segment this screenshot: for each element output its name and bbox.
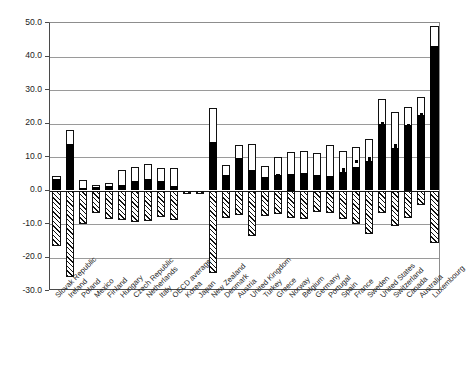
bar-segment-hatched — [235, 191, 243, 215]
bar-segment-hatched — [313, 191, 321, 212]
bar-segment-black — [144, 179, 152, 190]
bar-segment-hatched — [196, 191, 204, 194]
bar-segment-black — [261, 177, 269, 190]
bar-group — [287, 23, 295, 289]
bar-segment-hatched — [105, 191, 113, 219]
y-tick-label: 0.0 — [2, 185, 42, 194]
bar-group — [365, 23, 373, 289]
bar-segment-black — [378, 124, 386, 190]
bar-segment-hatched — [430, 191, 438, 243]
bar-group — [261, 23, 269, 289]
bar-segment-hatched — [417, 191, 425, 205]
bar-segment-hatched — [92, 191, 100, 214]
bar-segment-black — [131, 181, 139, 190]
data-point-marker — [407, 124, 410, 127]
bar-group — [209, 23, 217, 289]
bar-group — [170, 23, 178, 289]
bar-group — [222, 23, 230, 289]
bar-segment-black — [417, 115, 425, 190]
bar-segment-hatched — [222, 191, 230, 218]
bar-segment-black — [248, 170, 256, 191]
y-tick-label: -10.0 — [2, 219, 42, 228]
bar-group — [352, 23, 360, 289]
bar-segment-hatched — [79, 191, 87, 225]
bar-segment-black — [300, 173, 308, 190]
bar-segment-hatched — [300, 191, 308, 219]
bar-segment-black — [274, 175, 282, 190]
bar-segment-hatched — [352, 191, 360, 224]
data-point-marker — [394, 144, 397, 147]
bar-segment-hatched — [326, 191, 334, 213]
bar-segment-black — [157, 181, 165, 191]
bar-segment-black — [222, 175, 230, 191]
bar-segment-black — [430, 46, 438, 191]
bar-segment-black — [391, 148, 399, 190]
bar-group — [339, 23, 347, 289]
bar-segment-black — [404, 125, 412, 190]
bar-segment-black — [235, 158, 243, 190]
bar-segment-hatched — [287, 191, 295, 218]
bar-segment-black — [287, 174, 295, 191]
bar-segment-hatched — [248, 191, 256, 237]
bar-group — [248, 23, 256, 289]
bar-segment-black — [326, 176, 334, 190]
y-tick-label: 50.0 — [2, 18, 42, 27]
bar-segment-hatched — [378, 191, 386, 214]
bar-segment-black — [209, 142, 217, 190]
bar-group — [52, 23, 60, 289]
bar-segment-hatched — [209, 191, 217, 273]
data-point-marker — [368, 157, 371, 160]
data-point-marker — [316, 176, 319, 179]
data-point-marker — [381, 122, 384, 125]
bar-segment-hatched — [261, 191, 269, 217]
bar-group — [378, 23, 386, 289]
bar-segment-hatched — [52, 191, 60, 246]
bar-segment-hatched — [183, 191, 191, 194]
bar-group — [235, 23, 243, 289]
data-point-marker — [420, 113, 423, 116]
bar-segment-hatched — [118, 191, 126, 220]
plot-area — [49, 22, 440, 290]
bar-group — [105, 23, 113, 289]
bar-segment-hatched — [391, 191, 399, 227]
bar-group — [274, 23, 282, 289]
bar-group — [79, 23, 87, 289]
y-tick-mark — [45, 290, 49, 291]
bar-group — [300, 23, 308, 289]
bar-group — [196, 23, 204, 289]
bar-group — [144, 23, 152, 289]
bars-layer — [50, 23, 439, 289]
bar-segment-black — [365, 161, 373, 191]
bar-group — [404, 23, 412, 289]
bar-group — [391, 23, 399, 289]
bar-segment-hatched — [157, 191, 165, 217]
data-point-marker — [355, 160, 358, 163]
y-tick-label: 20.0 — [2, 118, 42, 127]
data-point-marker — [342, 168, 345, 171]
y-tick-label: 30.0 — [2, 85, 42, 94]
bar-group — [430, 23, 438, 289]
y-tick-label: 10.0 — [2, 152, 42, 161]
y-tick-label: -30.0 — [2, 286, 42, 295]
bar-group — [92, 23, 100, 289]
bar-segment-hatched — [144, 191, 152, 222]
bar-group — [66, 23, 74, 289]
bar-segment-black — [52, 179, 60, 190]
bar-segment-black — [352, 167, 360, 190]
bar-group — [131, 23, 139, 289]
bar-segment-hatched — [274, 191, 282, 214]
bar-group — [313, 23, 321, 289]
bar-group — [417, 23, 425, 289]
bar-group — [183, 23, 191, 289]
bar-group — [157, 23, 165, 289]
bar-segment-black — [339, 172, 347, 190]
bar-segment-hatched — [170, 191, 178, 221]
bar-group — [118, 23, 126, 289]
bar-segment-hatched — [66, 191, 74, 277]
data-point-marker — [276, 174, 279, 177]
bar-segment-hatched — [365, 191, 373, 235]
y-tick-label: 40.0 — [2, 51, 42, 60]
bar-group — [326, 23, 334, 289]
bar-segment-hatched — [131, 191, 139, 222]
